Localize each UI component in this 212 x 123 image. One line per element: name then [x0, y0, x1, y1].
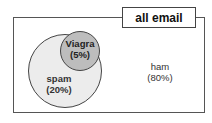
spam-name: spam [36, 73, 82, 84]
ham-percent: (80%) [140, 72, 180, 83]
spam-label: spam (20%) [36, 73, 82, 95]
spam-percent: (20%) [36, 84, 82, 95]
all-email-label: all email [122, 7, 196, 28]
ham-name: ham [140, 61, 180, 72]
viagra-name: Viagra [60, 38, 100, 49]
viagra-label: Viagra (5%) [60, 38, 100, 60]
viagra-percent: (5%) [60, 49, 100, 60]
ham-label: ham (80%) [140, 61, 180, 83]
